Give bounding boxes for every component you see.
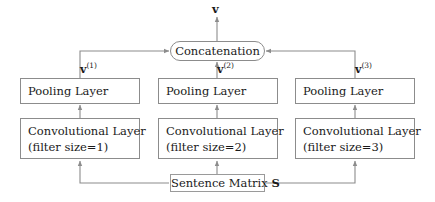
convolutional-layer-branch-3[interactable]: Convolutional Layer (filter size=3) bbox=[295, 118, 415, 159]
output-vector-label: v bbox=[212, 2, 219, 16]
convolutional-layer-branch-2[interactable]: Convolutional Layer (filter size=2) bbox=[158, 118, 278, 159]
wire-pool3-to-concat bbox=[266, 51, 355, 78]
sentence-matrix-text: Sentence Matrix bbox=[171, 176, 271, 190]
vector-label-branch-2-superscript: (2) bbox=[223, 61, 234, 70]
conv-branch-1-line2: (filter size=1) bbox=[28, 139, 139, 155]
conv-branch-3-line2: (filter size=3) bbox=[303, 139, 414, 155]
conv-branch-2-line2: (filter size=2) bbox=[166, 139, 277, 155]
pooling-layer-branch-2[interactable]: Pooling Layer bbox=[158, 78, 278, 104]
pooling-layer-branch-1[interactable]: Pooling Layer bbox=[20, 78, 140, 104]
concatenation-node[interactable]: Concatenation bbox=[170, 41, 265, 61]
wire-input-to-conv1 bbox=[80, 161, 169, 183]
vector-label-branch-3: v(3) bbox=[355, 61, 372, 76]
conv-branch-2-line1: Convolutional Layer bbox=[166, 123, 277, 139]
pooling-layer-branch-3[interactable]: Pooling Layer bbox=[295, 78, 415, 104]
vector-label-branch-3-superscript: (3) bbox=[361, 61, 372, 70]
sentence-matrix-symbol: S bbox=[271, 176, 279, 190]
vector-label-branch-2: v(2) bbox=[217, 61, 234, 76]
cnn-architecture-diagram: v Concatenation v(1) v(2) v(3) Pooling L… bbox=[0, 0, 435, 202]
conv-branch-1-line1: Convolutional Layer bbox=[28, 123, 139, 139]
vector-label-branch-1-superscript: (1) bbox=[86, 61, 97, 70]
convolutional-layer-branch-1[interactable]: Convolutional Layer (filter size=1) bbox=[20, 118, 140, 159]
sentence-matrix-node[interactable]: Sentence Matrix S bbox=[170, 174, 265, 192]
vector-label-branch-1: v(1) bbox=[80, 61, 97, 76]
conv-branch-3-line1: Convolutional Layer bbox=[303, 123, 414, 139]
